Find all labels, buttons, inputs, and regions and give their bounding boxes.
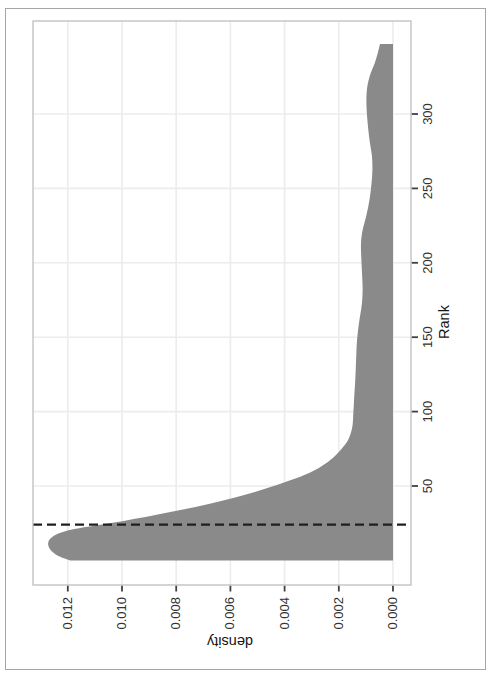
y-tick-label: 0.000 [385, 597, 401, 649]
y-tick-label: 0.004 [277, 597, 293, 649]
x-tick-label: 50 [420, 464, 436, 508]
x-tick-label: 200 [420, 241, 436, 285]
y-axis-title: density [190, 633, 270, 651]
y-tick-label: 0.002 [331, 597, 347, 649]
density-area [48, 44, 393, 560]
y-tick-label: 0.012 [60, 597, 76, 649]
x-axis-title: Rank [435, 287, 453, 357]
x-tick-label: 100 [420, 390, 436, 434]
y-tick-label: 0.010 [114, 597, 130, 649]
density-plot: 50100150200250300 0.0000.0020.0040.0060.… [0, 0, 494, 680]
scanned-plot-page: 50100150200250300 0.0000.0020.0040.0060.… [0, 0, 494, 680]
x-tick-label: 250 [420, 166, 436, 210]
x-tick-label: 150 [420, 315, 436, 359]
y-tick-label: 0.008 [168, 597, 184, 649]
x-tick-label: 300 [420, 92, 436, 136]
